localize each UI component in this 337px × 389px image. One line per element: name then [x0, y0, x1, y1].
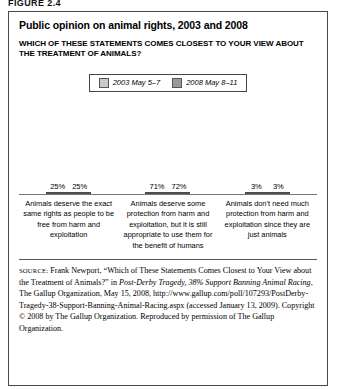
legend-wrapper: 2003 May 5–7 2008 May 8–11	[19, 74, 317, 92]
source-keyword: Source:	[19, 267, 48, 274]
bar-value-2003-cat3: 3%	[251, 182, 262, 191]
chart-plot-area: 25% 25% 71% 72%	[19, 100, 317, 195]
bar-group-2: 71% 72%	[118, 99, 217, 194]
figure-inner: Public opinion on animal rights, 2003 an…	[9, 12, 327, 385]
legend-swatch-2003	[99, 78, 109, 88]
category-label-2: Animals deserve some protection from har…	[118, 199, 217, 252]
legend-item-2008: 2008 May 8–11	[172, 78, 237, 88]
figure-label: FIGURE 2.4	[8, 0, 61, 8]
legend-label-2008: 2008 May 8–11	[186, 78, 237, 87]
bar-value-2008-cat2: 72%	[171, 182, 186, 191]
legend-swatch-2008	[172, 78, 182, 88]
source-note: Source: Frank Newport, “Which of These S…	[19, 265, 317, 334]
category-label-1: Animals deserve the exact same rights as…	[19, 199, 118, 252]
source-title-italic: Post-Derby Tragedy, 38% Support Banning …	[119, 278, 311, 287]
bar-value-2008-cat3: 3%	[273, 182, 284, 191]
legend-item-2003: 2003 May 5–7	[99, 78, 161, 88]
legend-label-2003: 2003 May 5–7	[113, 78, 161, 87]
bar-value-2008-cat1: 25%	[72, 182, 87, 191]
chart-legend: 2003 May 5–7 2008 May 8–11	[89, 74, 248, 92]
bar-groups: 25% 25% 71% 72%	[19, 99, 317, 194]
bar-group-3: 3% 3%	[218, 99, 317, 194]
page-title: Public opinion on animal rights, 2003 an…	[19, 20, 317, 32]
figure-frame: Public opinion on animal rights, 2003 an…	[8, 11, 328, 386]
bar-value-2003-cat1: 25%	[50, 182, 65, 191]
chart-baseline	[19, 194, 317, 195]
source-divider	[19, 259, 317, 260]
category-labels: Animals deserve the exact same rights as…	[19, 199, 317, 252]
bar-value-2003-cat2: 71%	[149, 182, 164, 191]
bar-group-1: 25% 25%	[19, 99, 118, 194]
chart-question-subtitle: WHICH OF THESE STATEMENTS COMES CLOSEST …	[19, 39, 317, 60]
category-label-3: Animals don’t need much protection from …	[218, 199, 317, 252]
